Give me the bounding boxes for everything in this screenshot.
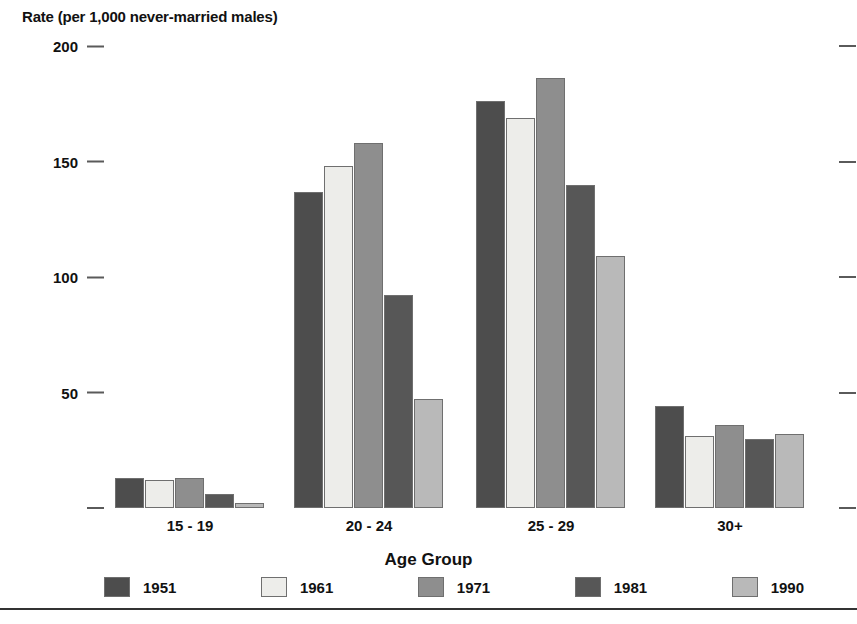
bar-group: 15 - 19 — [115, 46, 265, 508]
bar-1951-30+[interactable] — [655, 406, 684, 508]
x-tick-label: 30+ — [655, 517, 805, 534]
bar-group-bars — [476, 46, 626, 508]
bar-1990-20-24[interactable] — [414, 399, 443, 508]
y-tick-150: 150 — [40, 153, 104, 170]
legend-label: 1990 — [771, 579, 804, 596]
bar-group: 30+ — [655, 46, 805, 508]
x-tick-label: 20 - 24 — [294, 517, 444, 534]
legend-item-1961[interactable]: 1961 — [261, 577, 333, 597]
bar-1971-30+[interactable] — [715, 425, 744, 508]
bar-group-bars — [655, 46, 805, 508]
y-tick-mark-right-50 — [839, 392, 856, 394]
legend-label: 1961 — [300, 579, 333, 596]
bar-1990-25-29[interactable] — [596, 256, 625, 508]
bottom-divider — [0, 608, 857, 610]
legend-swatch-1990 — [732, 577, 758, 597]
bar-1951-25-29[interactable] — [476, 101, 505, 508]
legend-label: 1971 — [457, 579, 490, 596]
x-tick-label: 25 - 29 — [476, 517, 626, 534]
bar-1971-20-24[interactable] — [354, 143, 383, 508]
bar-1990-30+[interactable] — [775, 434, 804, 508]
y-tick-0 — [40, 507, 104, 509]
bar-1981-20-24[interactable] — [384, 295, 413, 508]
legend-swatch-1981 — [575, 577, 601, 597]
y-tick-label: 200 — [40, 38, 78, 55]
y-tick-50: 50 — [40, 384, 104, 401]
y-tick-mark — [87, 392, 104, 394]
plot-area: 20015010050 15 - 1920 - 2425 - 2930+ — [104, 46, 832, 508]
y-axis-title: Rate (per 1,000 never-married males) — [22, 8, 277, 25]
y-tick-mark — [87, 507, 104, 509]
legend-swatch-1951 — [104, 577, 130, 597]
y-tick-mark — [87, 161, 104, 163]
y-tick-label: 50 — [40, 384, 78, 401]
bar-1961-30+[interactable] — [685, 436, 714, 508]
y-tick-200: 200 — [40, 38, 104, 55]
bar-1971-15-19[interactable] — [175, 478, 204, 508]
bar-1990-15-19[interactable] — [235, 503, 264, 508]
legend-item-1971[interactable]: 1971 — [418, 577, 490, 597]
y-tick-mark-right-100 — [839, 276, 856, 278]
y-tick-label: 150 — [40, 153, 78, 170]
x-axis-title: Age Group — [0, 550, 857, 570]
y-tick-100: 100 — [40, 269, 104, 286]
legend-item-1990[interactable]: 1990 — [732, 577, 804, 597]
legend-label: 1951 — [143, 579, 176, 596]
bar-1961-15-19[interactable] — [145, 480, 174, 508]
y-tick-mark-right-150 — [839, 161, 856, 163]
legend-label: 1981 — [614, 579, 647, 596]
chart-legend: 19511961197119811990 — [104, 577, 804, 597]
bar-1961-25-29[interactable] — [506, 118, 535, 508]
bar-1971-25-29[interactable] — [536, 78, 565, 508]
bar-group: 20 - 24 — [294, 46, 444, 508]
legend-swatch-1971 — [418, 577, 444, 597]
bar-1981-30+[interactable] — [745, 439, 774, 508]
y-tick-mark — [87, 45, 104, 47]
legend-item-1951[interactable]: 1951 — [104, 577, 176, 597]
bar-1951-15-19[interactable] — [115, 478, 144, 508]
legend-swatch-1961 — [261, 577, 287, 597]
y-tick-mark-right-200 — [839, 45, 856, 47]
bar-group-bars — [294, 46, 444, 508]
y-tick-mark-right-0 — [839, 507, 856, 509]
bar-group: 25 - 29 — [476, 46, 626, 508]
bar-1951-20-24[interactable] — [294, 192, 323, 508]
chart-page: Rate (per 1,000 never-married males) 200… — [0, 0, 857, 624]
bar-1981-15-19[interactable] — [205, 494, 234, 508]
bar-group-bars — [115, 46, 265, 508]
y-tick-label: 100 — [40, 269, 78, 286]
bar-1981-25-29[interactable] — [566, 185, 595, 508]
y-tick-mark — [87, 276, 104, 278]
bar-1961-20-24[interactable] — [324, 166, 353, 508]
legend-item-1981[interactable]: 1981 — [575, 577, 647, 597]
x-tick-label: 15 - 19 — [115, 517, 265, 534]
